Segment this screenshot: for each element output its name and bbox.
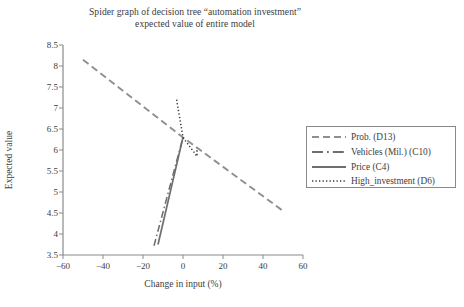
x-axis-ticks — [63, 255, 303, 259]
legend-label: High_investment (D6) — [351, 176, 435, 186]
series-line — [177, 100, 197, 157]
legend-swatch-dotted-icon — [311, 176, 347, 186]
legend-label: Vehicles (Mil.) (C10) — [351, 147, 431, 157]
legend-item-high-investment[interactable]: High_investment (D6) — [311, 173, 435, 188]
legend-item-price[interactable]: Price (C4) — [311, 159, 389, 174]
series-line — [158, 137, 183, 244]
data-series-group — [83, 60, 283, 246]
legend-item-prob[interactable]: Prob. (D13) — [311, 129, 395, 144]
legend: Prob. (D13) Vehicles (Mil.) (C10) Price … — [306, 126, 456, 188]
axes-group — [63, 45, 303, 255]
spider-graph-figure: Spider graph of decision tree “automatio… — [0, 0, 464, 307]
legend-swatch-solid-icon — [311, 162, 347, 172]
legend-swatch-dashed-icon — [311, 132, 347, 142]
legend-label: Price (C4) — [351, 162, 389, 172]
legend-swatch-dash-dot-icon — [311, 147, 347, 157]
legend-item-vehicles[interactable]: Vehicles (Mil.) (C10) — [311, 144, 431, 159]
legend-label: Prob. (D13) — [351, 132, 395, 142]
